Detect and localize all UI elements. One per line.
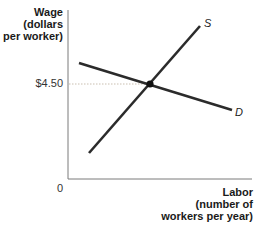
x-axis-label-line-3: workers per year)	[161, 210, 253, 222]
origin-label: 0	[57, 182, 63, 194]
x-axis-label-line-1: Labor	[161, 186, 253, 198]
supply-curve-label: S	[204, 17, 211, 29]
x-axis-label: Labor (number of workers per year)	[161, 186, 253, 222]
y-axis-label-line-1: Wage	[3, 6, 63, 18]
y-axis-label: Wage (dollars per worker)	[3, 6, 63, 42]
demand-curve	[79, 63, 232, 110]
x-axis-label-line-2: (number of	[161, 198, 253, 210]
y-axis-label-line-2: (dollars	[3, 18, 63, 30]
y-axis-label-line-3: per worker)	[3, 30, 63, 42]
demand-curve-label: D	[235, 106, 243, 118]
equilibrium-point	[146, 80, 153, 87]
wage-tick-label: $4.50	[35, 77, 63, 89]
supply-curve	[89, 26, 200, 153]
